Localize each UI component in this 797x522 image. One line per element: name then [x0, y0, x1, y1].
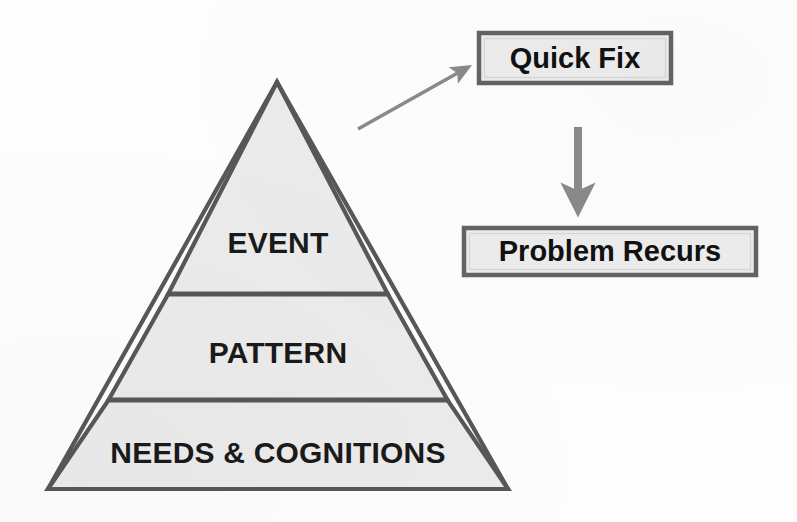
arrow-event-to-quick-fix: [358, 70, 463, 129]
pyramid-tier-event[interactable]: [168, 82, 388, 294]
pyramid-tier-pattern-label: PATTERN: [0, 337, 556, 369]
quick-fix-label: Quick Fix: [477, 41, 673, 75]
diagram-canvas: EVENT PATTERN NEEDS & COGNITIONS Quick F…: [0, 0, 797, 522]
problem-recurs-label: Problem Recurs: [462, 234, 758, 268]
pyramid-tier-needs-cognitions-label: NEEDS & COGNITIONS: [0, 437, 556, 469]
levels-pyramid: [48, 82, 508, 489]
